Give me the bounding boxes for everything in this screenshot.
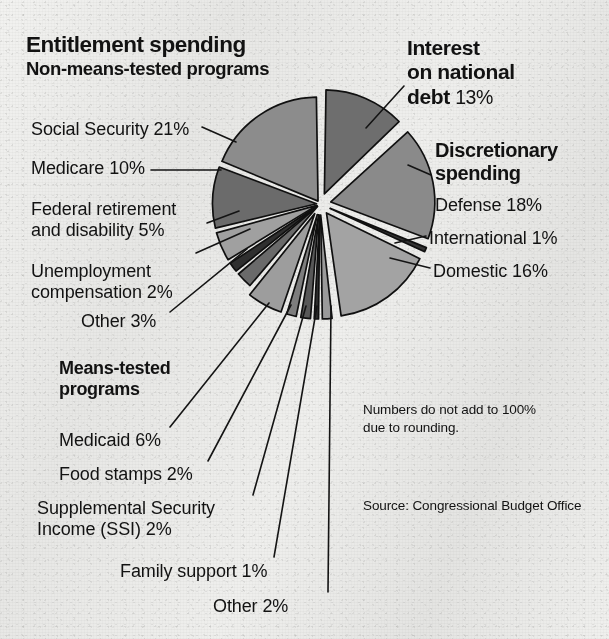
discretionary-spending-title: Discretionary spending [435,139,558,185]
food-stamps-label: Food stamps 2% [59,464,193,485]
interest-value-text: 13% [455,86,493,108]
other-non-means-tested-label: Other 3% [81,311,156,332]
means-tested-programs-title: Means-tested programs [59,358,170,400]
federal-retirement-label: Federal retirement and disability 5% [31,199,176,241]
entitlement-spending-title: Entitlement spending [26,32,246,58]
source-note: Source: Congressional Budget Office [363,498,581,514]
leader-line-domestic [390,258,430,268]
social-security-label: Social Security 21% [31,119,189,140]
non-means-tested-subtitle: Non-means-tested programs [26,58,269,79]
medicare-label: Medicare 10% [31,158,145,179]
defense-label: Defense 18% [435,195,542,216]
leader-line-federal-retirement [207,211,239,223]
other-means-tested-label: Other 2% [213,596,288,617]
leader-line-other-nonmeans [170,249,247,312]
leader-line-interest [366,86,404,128]
supplemental-security-income-label: Supplemental Security Income (SSI) 2% [37,498,215,540]
rounding-note: Numbers do not add to 100% due to roundi… [363,401,536,437]
interest-on-national-debt-label: Interest on national debt 13% [407,36,515,109]
leader-line-international [395,236,426,243]
leader-line-social-security [202,127,236,142]
leader-line-unemployment [196,229,250,253]
family-support-label: Family support 1% [120,561,267,582]
medicaid-label: Medicaid 6% [59,430,161,451]
international-label: International 1% [429,228,558,249]
unemployment-compensation-label: Unemployment compensation 2% [31,261,173,303]
leader-line-ssi [253,306,306,495]
leader-line-discretionary [408,165,431,175]
leader-line-other-means [328,306,331,592]
leader-line-medicaid [170,303,269,427]
chart-page: Entitlement spending Non-means-tested pr… [0,0,609,639]
domestic-label: Domestic 16% [433,261,548,282]
